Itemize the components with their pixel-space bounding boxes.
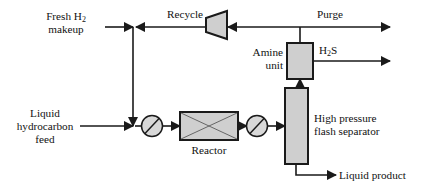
process-flow-diagram: Fresh H2 makeup Recycle Purge Amine unit… — [0, 0, 425, 191]
high-pressure-flash-separator[interactable] — [285, 88, 308, 164]
liquid-product-label: Liquid product — [339, 169, 407, 181]
amine-unit-label-line2: unit — [266, 59, 284, 71]
amine-unit[interactable] — [287, 43, 313, 79]
liquid-feed-label-line3: feed — [35, 133, 55, 145]
feed-heater[interactable] — [142, 116, 163, 137]
separator-label-line2: flash separator — [314, 125, 380, 137]
reactor-label: Reactor — [192, 144, 227, 156]
recycle-compressor[interactable] — [206, 11, 227, 39]
reactor[interactable] — [180, 112, 238, 140]
stream-liquid-product — [296, 164, 336, 175]
liquid-feed-label-line2: hydrocarbon — [17, 120, 74, 132]
amine-unit-label-line1: Amine — [253, 46, 283, 58]
separator-label-line1: High pressure — [314, 112, 376, 124]
liquid-product-line — [296, 164, 336, 175]
hydrogen-sulfide-label: H2S — [319, 44, 337, 58]
fresh-hydrogen-label-line2: makeup — [48, 23, 84, 35]
recycle-label: Recycle — [167, 8, 203, 20]
effluent-cooler[interactable] — [247, 116, 268, 137]
liquid-feed-label-line1: Liquid — [30, 107, 60, 119]
pfd-canvas: Fresh H2 makeup Recycle Purge Amine unit… — [0, 0, 425, 191]
purge-label: Purge — [317, 8, 343, 20]
